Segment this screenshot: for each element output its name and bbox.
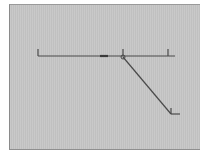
diagonal-line[interactable] <box>123 57 171 114</box>
diagram-svg <box>0 0 200 154</box>
end-marker <box>171 108 180 114</box>
